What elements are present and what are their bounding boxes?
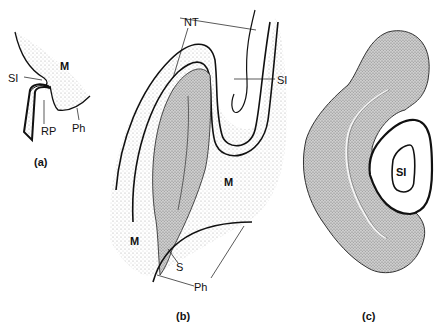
panel-c: SI (c) [303,31,432,322]
label-si-a: SI [8,72,18,84]
caption-b: (b) [176,310,190,322]
label-si-b: SI [277,74,287,86]
label-nt-b: NT [184,16,199,28]
panel-b: NT SI M M S Ph (b) [110,10,287,322]
label-m-b-left: M [130,235,139,247]
figure-canvas: M SI RP Ph (a) NT SI M M S Ph (b) SI [0,0,441,332]
leader-ph-b1 [157,275,194,286]
label-m-b-right: M [224,176,233,188]
label-si-c: SI [396,166,406,178]
leader-si-a [24,77,42,80]
caption-a: (a) [34,156,48,168]
leader-ph-a [77,108,79,120]
panel-a: M SI RP Ph (a) [8,32,90,168]
label-rp-a: RP [41,125,56,137]
figure-svg: M SI RP Ph (a) NT SI M M S Ph (b) SI [0,0,441,332]
infundibulum-lumen-b [232,10,255,113]
caption-c: (c) [362,310,376,322]
label-s-b: S [176,261,183,273]
label-ph-b: Ph [194,281,207,293]
label-m-a: M [60,60,69,72]
label-ph-a: Ph [72,122,85,134]
